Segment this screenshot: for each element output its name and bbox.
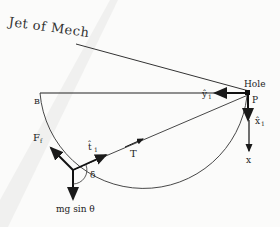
- tension-vector: [125, 139, 143, 147]
- friction-subscript: f: [40, 137, 43, 144]
- physics-diagram: Hole P B ŷ 1 x̂ 1 x t̂ 1 T F f δ mg sin …: [0, 0, 280, 227]
- x1-label: x̂: [255, 116, 260, 126]
- y1-subscript: 1: [208, 93, 212, 100]
- delta-angle-arc: [73, 165, 87, 184]
- semicircle-arc: [40, 93, 247, 188]
- t1-subscript: 1: [94, 146, 98, 153]
- x-label: x: [246, 155, 251, 165]
- tension-label: T: [130, 148, 137, 159]
- t1-vector: [73, 155, 106, 170]
- gravity-label: mg sin θ: [56, 204, 95, 214]
- p-label: P: [252, 95, 258, 105]
- y1-label: ŷ: [201, 89, 208, 99]
- friction-label: F: [33, 132, 40, 143]
- b-label: B: [34, 97, 40, 106]
- hole-label: Hole: [244, 79, 265, 89]
- x1-subscript: 1: [261, 120, 265, 127]
- delta-label: δ: [90, 170, 95, 180]
- friction-vector: [51, 148, 73, 170]
- upper-line: [76, 44, 249, 91]
- t1-label: t̂: [88, 140, 92, 152]
